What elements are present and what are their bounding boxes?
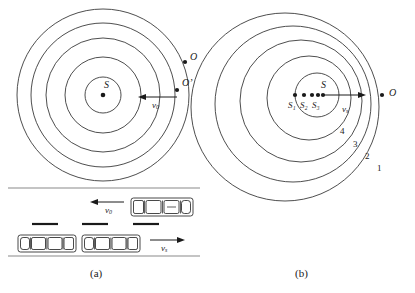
label-source-s2: S₂	[300, 101, 308, 110]
label-source-s-b: S	[321, 80, 326, 90]
caption-panel-b: (b)	[295, 268, 308, 279]
label-velocity-vs-road-sub: s	[165, 247, 167, 253]
wavefront-label-4: 4	[340, 127, 345, 136]
wavefront-label-3: 3	[353, 140, 358, 149]
observer-point-o	[183, 60, 187, 64]
label-velocity-v0-a-sub: 0	[156, 104, 159, 110]
wavefront-label-1: 1	[377, 164, 382, 173]
panel-a-graphic	[0, 0, 210, 265]
panel-b-graphic	[205, 0, 415, 200]
velocity-arrow-vs-road	[150, 237, 185, 243]
car-lower-2	[82, 235, 140, 252]
label-velocity-vs-b: vs	[342, 105, 348, 115]
car-lower-1	[18, 235, 76, 252]
road-scene	[8, 188, 200, 256]
source-dot-s3	[310, 93, 314, 97]
label-observer-o-a: O	[190, 52, 197, 62]
doppler-effect-figure: S O O’ v0 v0 vs	[0, 0, 415, 293]
car-upper	[131, 198, 193, 216]
label-velocity-v0-a: v0	[152, 101, 159, 111]
label-observer-o-b: O	[389, 88, 396, 98]
source-dot-s2	[302, 93, 306, 97]
label-velocity-vs-road: vs	[161, 244, 167, 254]
source-dot-s1	[293, 93, 297, 97]
caption-panel-a: (a)	[90, 268, 102, 279]
panel-a-stationary-source: S O O’ v0 v0 vs	[0, 0, 210, 293]
velocity-arrow-vs-b	[323, 92, 366, 98]
panel-b-moving-source: S S₁ S₂ S₃ vs O 4 3 2 1	[205, 0, 415, 293]
wavefront-label-2: 2	[365, 152, 370, 161]
wavefront-circle-1	[191, 13, 379, 201]
label-source-s1: S₁	[288, 101, 296, 110]
source-dot-s4	[316, 93, 320, 97]
label-velocity-v0-road-sub: 0	[109, 209, 112, 215]
label-velocity-vs-b-sub: s	[346, 108, 348, 114]
source-dots	[293, 93, 325, 97]
label-observer-o-prime-a: O’	[182, 78, 193, 88]
velocity-arrow-v0	[138, 94, 177, 100]
label-source-s-a: S	[104, 80, 109, 90]
label-velocity-v0-road: v0	[105, 206, 112, 216]
observer-point-o-prime	[175, 88, 179, 92]
source-point-s	[101, 93, 106, 98]
label-source-s3: S₃	[312, 101, 320, 110]
observer-point-o-b	[380, 93, 384, 97]
